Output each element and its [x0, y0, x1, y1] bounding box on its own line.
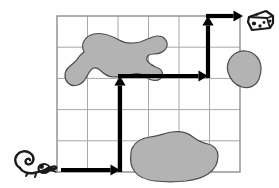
- cheese-hole: [256, 13, 259, 16]
- cheese-hole: [269, 20, 272, 23]
- cheese-hole: [258, 24, 261, 27]
- cheese-hole: [252, 21, 256, 25]
- mouse-ear: [39, 164, 44, 169]
- maze-canvas: [0, 0, 279, 188]
- cheese-hole: [263, 21, 266, 24]
- mouse-eye: [46, 167, 48, 169]
- maze-scene: [0, 0, 279, 188]
